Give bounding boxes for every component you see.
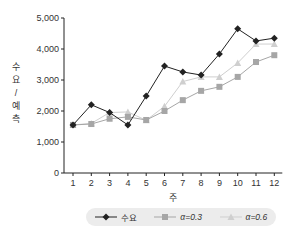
x-axis: 123456789101112 bbox=[64, 173, 282, 188]
y-tick-label: 0 bbox=[54, 168, 59, 178]
data-point bbox=[107, 116, 113, 122]
data-point bbox=[88, 121, 94, 127]
x-tick-label: 4 bbox=[125, 178, 130, 188]
y-axis: 01,0002,0003,0004,0005,000 bbox=[36, 13, 64, 178]
x-tick-label: 11 bbox=[251, 178, 260, 188]
x-axis-title: 주 bbox=[169, 193, 177, 203]
x-tick-label: 10 bbox=[233, 178, 243, 188]
data-point bbox=[143, 117, 149, 123]
series-α=0.6 bbox=[70, 41, 278, 128]
y-tick-label: 1,000 bbox=[36, 137, 59, 147]
y-tick-label: 4,000 bbox=[36, 44, 59, 54]
x-tick-label: 2 bbox=[89, 178, 94, 188]
x-tick-label: 3 bbox=[107, 178, 112, 188]
data-point bbox=[216, 84, 222, 90]
data-point bbox=[198, 88, 204, 94]
data-point bbox=[271, 52, 277, 58]
y-tick-label: 3,000 bbox=[36, 75, 59, 85]
diamond-marker-icon bbox=[95, 213, 117, 221]
x-tick-label: 6 bbox=[162, 178, 167, 188]
series-수요 bbox=[70, 25, 278, 128]
x-tick-label: 1 bbox=[70, 178, 75, 188]
legend-item-alpha-06: α=0.6 bbox=[220, 212, 268, 222]
x-tick-label: 5 bbox=[144, 178, 149, 188]
line-chart: 01,0002,0003,0004,0005,000 1234567891011… bbox=[0, 0, 300, 240]
legend-label: α=0.3 bbox=[180, 212, 202, 222]
y-tick-label: 5,000 bbox=[36, 13, 59, 23]
data-point bbox=[125, 114, 131, 120]
series-α=0.3 bbox=[70, 52, 277, 128]
legend-label: α=0.6 bbox=[246, 212, 268, 222]
legend-label: 수요 bbox=[121, 211, 137, 223]
triangle-marker-icon bbox=[220, 213, 242, 221]
legend: 수요 α=0.3 α=0.6 bbox=[86, 208, 276, 226]
legend-item-demand: 수요 bbox=[95, 211, 137, 223]
y-tick-label: 2,000 bbox=[36, 106, 59, 116]
data-point bbox=[253, 59, 259, 65]
x-tick-label: 8 bbox=[199, 178, 204, 188]
series-group bbox=[70, 25, 278, 128]
y-axis-title: 수요/예측 bbox=[12, 62, 20, 124]
x-tick-label: 7 bbox=[180, 178, 185, 188]
data-point bbox=[234, 25, 241, 32]
data-point bbox=[162, 108, 168, 114]
legend-item-alpha-03: α=0.3 bbox=[154, 212, 202, 222]
x-tick-label: 12 bbox=[269, 178, 279, 188]
data-point bbox=[143, 93, 150, 100]
data-point bbox=[253, 37, 260, 44]
data-point bbox=[179, 68, 186, 75]
data-point bbox=[235, 74, 241, 80]
data-point bbox=[161, 63, 168, 70]
data-point bbox=[271, 35, 278, 42]
data-point bbox=[180, 97, 186, 103]
square-marker-icon bbox=[154, 213, 176, 221]
data-point bbox=[124, 121, 131, 128]
x-tick-label: 9 bbox=[217, 178, 222, 188]
